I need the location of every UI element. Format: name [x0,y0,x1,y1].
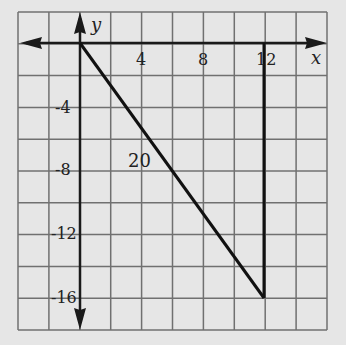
y-tick-neg12: -12 [51,226,77,242]
y-axis-label: y [91,16,101,34]
x-tick-4: 4 [136,52,146,68]
y-axis-down-arrow-icon [74,308,86,330]
x-axis-left-arrow-icon [20,37,42,49]
hypotenuse-length-label: 20 [128,152,151,170]
x-axis-label: x [311,49,321,67]
y-tick-neg8: -8 [55,162,71,178]
y-tick-neg16: -16 [51,290,77,306]
y-tick-neg4: -4 [55,100,71,116]
x-tick-12: 12 [256,52,276,68]
x-axis [20,37,327,49]
y-axis-up-arrow-icon [74,12,86,34]
x-tick-8: 8 [198,52,208,68]
